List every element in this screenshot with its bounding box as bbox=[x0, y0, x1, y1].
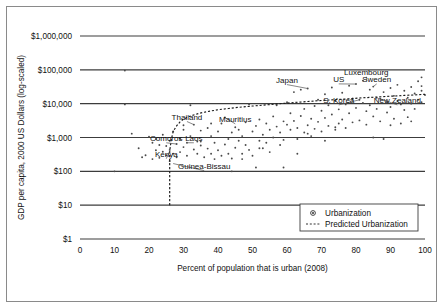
data-point bbox=[324, 93, 326, 95]
data-point bbox=[407, 116, 409, 118]
x-tick-label-7: 70 bbox=[317, 246, 327, 255]
y-tick-label-5: $100,000 bbox=[38, 66, 73, 75]
data-point bbox=[338, 108, 340, 110]
data-point bbox=[296, 153, 298, 155]
data-point bbox=[234, 126, 236, 128]
data-point bbox=[403, 90, 405, 92]
x-tick-label-8: 80 bbox=[351, 246, 361, 255]
legend-marker-dot bbox=[312, 212, 314, 214]
y-axis-title: GDP per capita, 2000 US Dollars (log-sca… bbox=[17, 55, 26, 220]
data-point bbox=[293, 91, 295, 93]
data-point bbox=[379, 120, 381, 122]
data-point bbox=[245, 144, 247, 146]
data-point bbox=[421, 90, 423, 92]
annotation-label-sweden: Sweden bbox=[362, 75, 391, 84]
data-point bbox=[334, 126, 336, 128]
data-point bbox=[193, 149, 195, 151]
data-point bbox=[255, 125, 257, 127]
data-point bbox=[314, 105, 316, 107]
data-point bbox=[345, 127, 347, 129]
chart-page: $1$10$100$1,000$10,000$100,000$1,000,000… bbox=[0, 0, 443, 308]
data-point bbox=[200, 145, 202, 147]
annotation-leader-line bbox=[187, 122, 194, 125]
data-point bbox=[248, 149, 250, 151]
data-point bbox=[124, 103, 126, 105]
data-point bbox=[327, 125, 329, 127]
annotation-label-s-korea: S. Korea bbox=[323, 96, 355, 105]
data-point bbox=[383, 91, 385, 93]
x-tick-label-4: 40 bbox=[213, 246, 223, 255]
data-point bbox=[290, 112, 292, 114]
data-point bbox=[272, 137, 274, 139]
data-point bbox=[403, 109, 405, 111]
x-axis-title: Percent of population that is urban (200… bbox=[177, 264, 328, 273]
annotation-leader-line bbox=[373, 84, 376, 87]
legend-label-predicted-urbanization: Predicted Urbanization bbox=[325, 220, 408, 229]
data-point bbox=[217, 131, 219, 133]
data-point bbox=[314, 128, 316, 130]
data-point bbox=[258, 147, 260, 149]
data-point bbox=[131, 133, 133, 135]
data-point bbox=[331, 114, 333, 116]
data-point bbox=[362, 102, 364, 104]
data-point bbox=[183, 146, 185, 148]
data-point bbox=[145, 154, 147, 156]
x-tick-label-5: 50 bbox=[248, 246, 258, 255]
data-point bbox=[152, 158, 154, 160]
data-point bbox=[396, 84, 398, 86]
data-point bbox=[265, 142, 267, 144]
data-point bbox=[296, 127, 298, 129]
data-point bbox=[290, 129, 292, 131]
legend[interactable]: UrbanizationPredicted Urbanization bbox=[300, 204, 418, 231]
data-point bbox=[224, 144, 226, 146]
data-point bbox=[324, 140, 326, 142]
data-point bbox=[262, 147, 264, 149]
annotations-group: LuxembourgUSSwedenJapanS. KoreaNew Zeala… bbox=[150, 68, 421, 171]
data-point bbox=[200, 130, 202, 132]
data-point bbox=[414, 108, 416, 110]
data-point bbox=[258, 119, 260, 121]
data-point bbox=[376, 108, 378, 110]
data-point bbox=[186, 155, 188, 157]
data-point bbox=[276, 126, 278, 128]
data-point bbox=[221, 155, 223, 157]
data-point bbox=[283, 167, 285, 169]
data-point bbox=[303, 108, 305, 110]
annotation-label-us: US bbox=[333, 75, 344, 84]
data-point bbox=[231, 170, 233, 172]
data-point bbox=[365, 124, 367, 126]
data-point bbox=[393, 118, 395, 120]
data-point bbox=[300, 89, 302, 91]
x-tick-label-10: 100 bbox=[418, 246, 432, 255]
data-point bbox=[341, 119, 343, 121]
annotation-label-laos: Laos bbox=[185, 134, 202, 143]
data-point bbox=[331, 87, 333, 89]
annotation-label-kenya: Kenya bbox=[155, 150, 178, 159]
x-tick-label-2: 20 bbox=[144, 246, 154, 255]
annotation-label-guinea-bissau: Guinea-Bissau bbox=[178, 162, 230, 171]
data-point bbox=[390, 124, 392, 126]
data-point bbox=[279, 144, 281, 146]
data-point bbox=[324, 117, 326, 119]
legend-label-urbanization: Urbanization bbox=[325, 209, 371, 218]
data-point bbox=[227, 138, 229, 140]
data-point bbox=[410, 86, 412, 88]
x-tick-label-9: 90 bbox=[386, 246, 396, 255]
annotation-label-japan: Japan bbox=[276, 76, 298, 85]
y-tick-label-3: $1,000 bbox=[47, 134, 72, 143]
y-tick-label-1: $10 bbox=[58, 201, 72, 210]
data-point bbox=[417, 80, 419, 82]
y-tick-label-0: $1 bbox=[63, 235, 73, 244]
data-point bbox=[203, 156, 205, 158]
data-point bbox=[252, 131, 254, 133]
data-point bbox=[217, 149, 219, 151]
y-tick-label-2: $100 bbox=[54, 167, 73, 176]
data-point bbox=[386, 112, 388, 114]
data-point bbox=[321, 110, 323, 112]
data-point bbox=[400, 123, 402, 125]
data-point bbox=[341, 92, 343, 94]
data-point bbox=[252, 155, 254, 157]
x-tick-label-0: 0 bbox=[78, 246, 83, 255]
predicted-urbanization-curve bbox=[170, 94, 425, 205]
data-point bbox=[241, 158, 243, 160]
